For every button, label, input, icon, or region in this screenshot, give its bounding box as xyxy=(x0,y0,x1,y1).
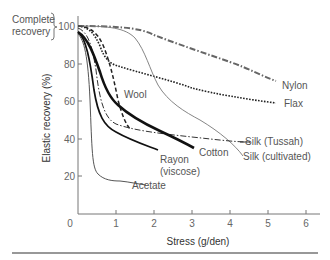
y-tick-20: 20 xyxy=(64,171,76,182)
x-axis-title: Stress (g/den) xyxy=(167,236,230,247)
y-axis-title: Elastic recovery (%) xyxy=(41,74,52,163)
y-ticks xyxy=(78,26,82,176)
label-nylon: Nylon xyxy=(282,80,308,91)
y-tick-80: 80 xyxy=(64,59,76,70)
annotation-complete: Complete xyxy=(12,14,55,25)
x-tick-0: 0 xyxy=(67,218,73,229)
label-acetate: Acetate xyxy=(132,180,166,191)
x-tick-6: 6 xyxy=(303,218,309,229)
elastic-recovery-chart: 100 80 60 40 20 0 1 2 3 4 5 6 Stress (g/… xyxy=(0,0,330,260)
label-cotton: Cotton xyxy=(199,147,228,158)
y-tick-60: 60 xyxy=(64,96,76,107)
y-tick-40: 40 xyxy=(64,134,76,145)
label-flax: Flax xyxy=(284,98,303,109)
label-rayon-line2: (viscose) xyxy=(160,166,200,177)
x-tick-3: 3 xyxy=(189,218,195,229)
label-wool: Wool xyxy=(124,89,147,100)
label-silk-tussah: Silk (Tussah) xyxy=(245,136,303,147)
x-tick-5: 5 xyxy=(265,218,271,229)
x-tick-1: 1 xyxy=(113,218,119,229)
y-tick-100: 100 xyxy=(58,21,75,32)
series-nylon xyxy=(78,26,276,81)
annotation-recovery: recovery xyxy=(12,26,50,37)
x-ticks xyxy=(116,210,306,214)
x-tick-4: 4 xyxy=(227,218,233,229)
x-tick-2: 2 xyxy=(151,218,157,229)
label-silk-cultivated: Silk (cultivated) xyxy=(243,151,311,162)
label-rayon-line1: Rayon xyxy=(160,154,189,165)
